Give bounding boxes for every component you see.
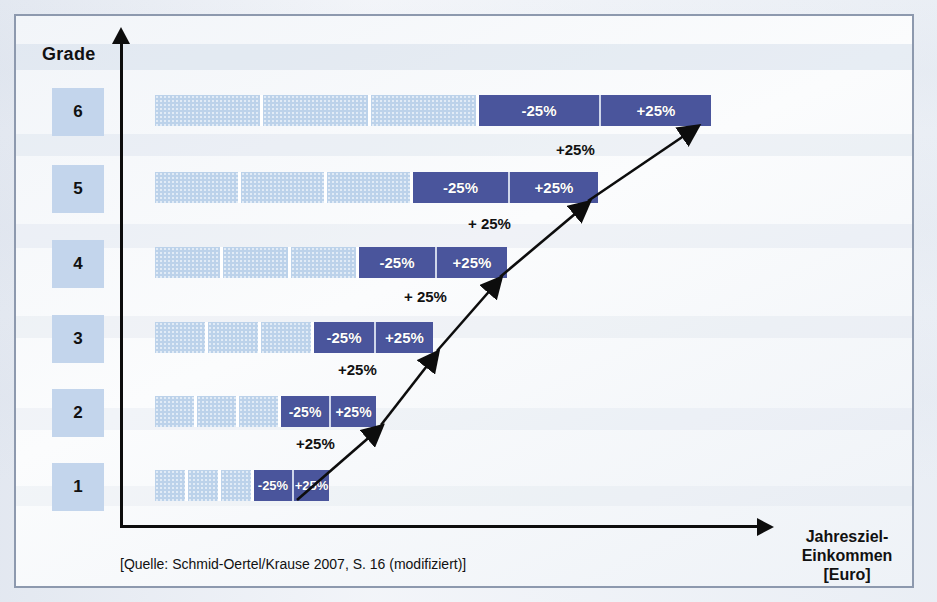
bar-segment-base: [155, 470, 188, 501]
bar-segment-base: [155, 95, 263, 126]
bar-segment-base: [371, 95, 479, 126]
bar-segment-minus25: -25%: [254, 470, 294, 501]
step-arrows-group: [0, 0, 937, 602]
bar-segment-base: [261, 322, 314, 353]
bar-segment-base: [155, 247, 223, 278]
bar-segment-minus25: -25%: [479, 95, 601, 126]
y-axis-title: Grade: [42, 44, 96, 65]
x-axis-caption-line-2: Einkommen: [772, 547, 922, 566]
grade-tick-3: 3: [52, 315, 104, 363]
y-axis-arrow-icon: [112, 27, 130, 44]
bar-segment-minus25: -25%: [359, 247, 437, 278]
bar-grade-3: -25% +25%: [155, 322, 433, 353]
bar-segment-base: [197, 396, 239, 427]
bar-segment-base: [263, 95, 371, 126]
bar-grade-5: -25% +25%: [155, 172, 598, 203]
step-arrow-4-to-5: [500, 203, 588, 277]
source-note: [Quelle: Schmid-Oertel/Krause 2007, S. 1…: [120, 556, 466, 572]
bar-segment-base: [155, 172, 241, 203]
step-arrow-label-5-to-6: +25%: [556, 141, 595, 158]
bar-segment-base: [223, 247, 291, 278]
bar-segment-plus25: +25%: [510, 172, 598, 203]
bar-segment-base: [291, 247, 359, 278]
bar-segment-plus25: +25%: [601, 95, 711, 126]
bar-segment-base: [155, 396, 197, 427]
bar-grade-6: -25% +25%: [155, 95, 711, 126]
grade-tick-4: 4: [52, 240, 104, 288]
grade-tick-5: 5: [52, 165, 104, 213]
x-axis-line: [120, 525, 760, 528]
bar-segment-base: [155, 322, 208, 353]
bar-segment-base: [221, 470, 254, 501]
bar-grade-1: -25% +25%: [155, 470, 329, 501]
step-arrow-5-to-6: [588, 127, 697, 201]
bar-segment-plus25: +25%: [437, 247, 507, 278]
bar-segment-base: [188, 470, 221, 501]
x-axis-caption-line-1: Jahresziel-: [772, 528, 922, 547]
bar-grade-2: -25% +25%: [155, 396, 376, 427]
bar-segment-minus25: -25%: [413, 172, 510, 203]
step-arrow-label-3-to-4: + 25%: [404, 288, 447, 305]
bar-segment-base: [327, 172, 413, 203]
bar-segment-plus25: +25%: [331, 396, 376, 427]
chart-plot-area: Grade 6 5 4 3 2 1 -25% +25% -25% +25% -2…: [0, 0, 937, 602]
step-arrow-2-to-3: [381, 353, 437, 425]
y-axis-line: [120, 40, 123, 528]
grade-tick-1: 1: [52, 463, 104, 511]
bar-grade-4: -25% +25%: [155, 247, 507, 278]
step-arrow-label-4-to-5: + 25%: [468, 215, 511, 232]
bar-segment-minus25: -25%: [281, 396, 331, 427]
x-axis-caption: Jahresziel- Einkommen [Euro]: [772, 528, 922, 585]
bar-segment-base: [208, 322, 261, 353]
step-arrow-label-1-to-2: +25%: [296, 435, 335, 452]
bar-segment-plus25: +25%: [294, 470, 329, 501]
bar-segment-minus25: -25%: [314, 322, 376, 353]
bar-segment-plus25: +25%: [376, 322, 433, 353]
step-arrow-label-2-to-3: +25%: [338, 361, 377, 378]
grade-tick-6: 6: [52, 88, 104, 136]
x-axis-caption-line-3: [Euro]: [772, 566, 922, 585]
bar-segment-base: [241, 172, 327, 203]
grade-tick-2: 2: [52, 389, 104, 437]
bar-segment-base: [239, 396, 281, 427]
